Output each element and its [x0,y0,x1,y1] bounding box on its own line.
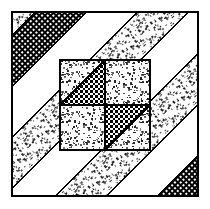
quilt-block-figure: Diagonal Stripe Quilt Block [0,0,210,209]
center-four-patch [60,60,150,150]
center-cell-top-left [60,60,105,105]
center-cell-top-right [105,60,150,105]
center-cell-bottom-right [105,105,150,150]
quilt-svg-canvas [0,0,210,209]
center-cell-bottom-left [60,105,105,150]
